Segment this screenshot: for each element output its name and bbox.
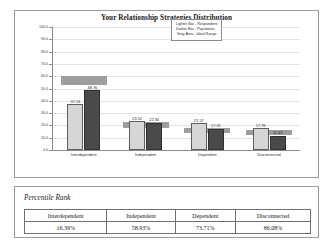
chart-group: 17.7811.43Disconnected xyxy=(238,27,300,150)
bar-population xyxy=(208,129,224,150)
bar-value-label: 48.76 xyxy=(88,85,98,90)
percentile-rank-panel: Percentile Rank Interdependent Independe… xyxy=(14,186,319,238)
header-dependent: Dependent xyxy=(175,210,235,222)
y-axis-label: 60.0 xyxy=(41,74,48,78)
legend-ideal-range: Gray Area - Ideal Range xyxy=(176,32,217,37)
y-axis-label: 30.0 xyxy=(41,111,48,115)
y-axis-label: 70.0 xyxy=(41,62,48,66)
y-axis-label: 50.0 xyxy=(41,87,48,91)
bar-respondent xyxy=(191,123,207,150)
chart-group: 21.5717.31Dependent xyxy=(177,27,239,150)
header-independent: Independent xyxy=(107,210,175,222)
y-axis-label: 20.0 xyxy=(41,123,48,127)
y-axis-label: 10.0 xyxy=(41,136,48,140)
y-axis-label: 80.0 xyxy=(41,50,48,54)
chart-group: 37.1348.76Interdependent xyxy=(53,27,115,150)
y-axis-label: 90.0 xyxy=(41,37,48,41)
bar-value-label: 23.52 xyxy=(132,116,142,121)
chart-group: 23.5222.30Independent xyxy=(115,27,177,150)
header-interdependent: Interdependent xyxy=(25,210,107,222)
bar-respondent xyxy=(129,121,145,150)
chart-legend: Lighter Bar - Respondent Darker Bar - Po… xyxy=(171,19,222,41)
bar-value-label: 22.30 xyxy=(149,117,159,122)
y-axis-label: 40.0 xyxy=(41,99,48,103)
bar-respondent xyxy=(67,104,83,150)
chart-plot-area: 0.010.020.030.040.050.060.070.080.090.01… xyxy=(52,27,300,151)
bar-value-label: 11.43 xyxy=(273,130,282,135)
x-axis-label: Dependent xyxy=(198,153,217,157)
x-axis-label: Interdependent xyxy=(71,153,97,157)
bar-population xyxy=(84,90,100,150)
bar-population xyxy=(146,123,162,150)
y-axis-label: 0.0 xyxy=(43,148,48,152)
chart-panel: Your Relationship Strategies Distributio… xyxy=(14,10,319,178)
y-axis-label: 100.0 xyxy=(39,25,48,29)
bar-value-label: 17.31 xyxy=(211,123,221,128)
report-page: Your Relationship Strategies Distributio… xyxy=(0,0,333,252)
table-row: 16.39% 58.93% 73.71% 86.08% xyxy=(25,222,311,234)
value-interdependent: 16.39% xyxy=(25,222,107,234)
value-dependent: 73.71% xyxy=(175,222,235,234)
bar-value-label: 37.13 xyxy=(71,99,81,104)
percentile-rank-caption: Percentile Rank xyxy=(24,193,71,202)
bar-respondent xyxy=(253,128,269,150)
bar-population xyxy=(270,136,286,150)
chart-title: Your Relationship Strategies Distributio… xyxy=(15,14,318,22)
percentile-rank-table: Interdependent Independent Dependent Dis… xyxy=(24,209,311,234)
header-disconnected: Disconnected xyxy=(235,210,310,222)
bar-value-label: 21.57 xyxy=(194,118,204,123)
y-axis-tick xyxy=(49,150,53,151)
value-disconnected: 86.08% xyxy=(235,222,310,234)
bar-value-label: 17.78 xyxy=(256,123,266,128)
value-independent: 58.93% xyxy=(107,222,175,234)
x-axis-label: Disconnected xyxy=(258,153,281,157)
table-header-row: Interdependent Independent Dependent Dis… xyxy=(25,210,311,222)
x-axis-label: Independent xyxy=(135,153,156,157)
ideal-range-band xyxy=(61,76,107,85)
